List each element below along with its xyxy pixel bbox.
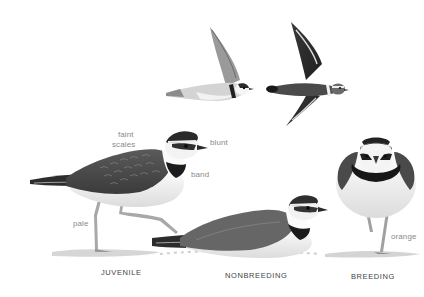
- caption-nonbreeding: NONBREEDING: [225, 271, 287, 280]
- nonbreeding-bird: [152, 195, 328, 258]
- annotation-pale: pale: [73, 219, 89, 228]
- annotation-faint: faint: [118, 130, 134, 139]
- annotation-band: band: [191, 170, 209, 179]
- plover-plate: faint scales blunt band pale orange JUVE…: [0, 0, 424, 297]
- plate-illustration: [0, 0, 424, 297]
- caption-juvenile: JUVENILE: [101, 268, 142, 277]
- caption-breeding: BREEDING: [351, 272, 395, 281]
- annotation-scales: scales: [112, 140, 135, 149]
- annotation-orange: orange: [391, 232, 417, 241]
- flight-underside-bird: [166, 27, 254, 101]
- annotation-blunt: blunt: [210, 138, 228, 147]
- flight-upperside-bird: [266, 22, 349, 126]
